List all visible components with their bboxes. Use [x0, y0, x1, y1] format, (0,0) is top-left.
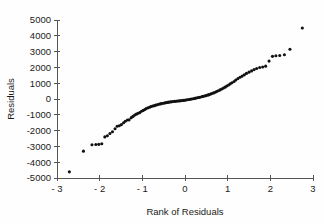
y-tick-label: 4000	[30, 30, 51, 41]
y-axis-tick-labels: 500040003000200010000-1000-2000-3000-400…	[27, 14, 51, 183]
data-point	[274, 54, 277, 57]
x-tick-label: 0	[182, 183, 187, 194]
y-tick-label: 5000	[30, 14, 51, 25]
data-point	[100, 142, 103, 145]
data-point	[264, 65, 267, 68]
x-tick-label: 2	[268, 183, 273, 194]
y-tick-label: 0	[46, 93, 51, 104]
y-axis-title: Residuals	[5, 78, 16, 120]
data-point	[261, 65, 264, 68]
data-point	[283, 53, 286, 56]
data-point	[268, 60, 271, 63]
data-point	[258, 66, 261, 69]
x-tick-label: - 2	[94, 183, 105, 194]
x-tick-label: 3	[310, 183, 315, 194]
y-tick-label: 1000	[30, 78, 51, 89]
y-tick-label: -5000	[27, 172, 51, 183]
data-point	[94, 143, 97, 146]
data-point	[106, 134, 109, 137]
x-tick-label: - 3	[51, 183, 62, 194]
y-tick-label: -2000	[27, 125, 51, 136]
data-point	[108, 132, 111, 135]
data-point	[82, 150, 85, 153]
x-tick-label: - 1	[137, 183, 148, 194]
x-axis-tick-labels: - 3- 2- 10123	[51, 183, 315, 194]
data-point	[90, 143, 93, 146]
y-tick-label: -1000	[27, 109, 51, 120]
data-point	[301, 27, 304, 30]
x-tick-label: 1	[225, 183, 230, 194]
data-points-layer	[68, 27, 304, 174]
plot-canvas: 500040003000200010000-1000-2000-3000-400…	[0, 0, 324, 224]
data-point	[68, 170, 71, 173]
y-tick-label: 3000	[30, 46, 51, 57]
data-point	[255, 67, 258, 70]
data-point	[288, 48, 291, 51]
y-tick-label: 2000	[30, 62, 51, 73]
data-point	[111, 130, 114, 133]
x-axis-title: Rank of Residuals	[146, 206, 223, 217]
data-point	[97, 143, 100, 146]
data-point	[271, 55, 274, 58]
data-point	[113, 127, 116, 130]
data-point	[278, 54, 281, 57]
y-tick-label: -3000	[27, 141, 51, 152]
y-tick-label: -4000	[27, 157, 51, 168]
scatter-plot-chart: 500040003000200010000-1000-2000-3000-400…	[0, 0, 324, 224]
